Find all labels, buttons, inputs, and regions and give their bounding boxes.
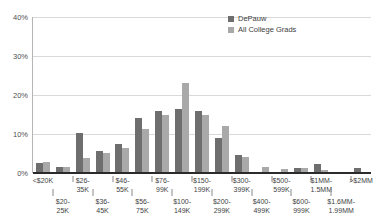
bar-group xyxy=(93,17,113,173)
bar-group xyxy=(351,17,371,173)
y-axis-tick-label: 0% xyxy=(0,169,28,178)
bar-group xyxy=(53,17,73,173)
bar-group xyxy=(311,17,331,173)
x-axis-tick-mark xyxy=(72,176,73,182)
bar-depauw xyxy=(115,144,122,173)
legend-label-depauw: DePauw xyxy=(238,13,266,24)
legend-swatch-icon xyxy=(228,27,234,33)
x-axis-tick-label: $300-399K xyxy=(233,177,251,194)
y-axis-tick-label: 40% xyxy=(0,13,28,22)
bar-group xyxy=(33,17,53,173)
x-axis-tick-mark xyxy=(52,189,53,196)
bar-depauw xyxy=(215,138,222,173)
bar-group xyxy=(73,17,93,173)
income-distribution-bar-chart: 0%10%20%30%40% <$20K$20-25K$26-35K$36-45… xyxy=(0,0,380,221)
x-axis-tick-label: <$20K xyxy=(33,177,53,186)
chart-legend: DePauw All College Grads xyxy=(228,13,296,35)
x-axis-tick-label: $100-149K xyxy=(173,198,191,215)
bar-depauw xyxy=(76,133,83,173)
x-axis-tick-mark xyxy=(112,176,113,182)
bar-group xyxy=(272,17,292,173)
bar-depauw xyxy=(235,155,242,173)
y-axis-tick-label: 20% xyxy=(0,91,28,100)
bar-group xyxy=(252,17,272,173)
x-axis-tick-label: $20-25K xyxy=(56,198,70,215)
bar-all-college-grads xyxy=(103,153,110,173)
bar-group xyxy=(291,17,311,173)
x-axis-tick-label: $56-75K xyxy=(135,198,149,215)
legend-item-depauw: DePauw xyxy=(228,13,296,24)
bar-depauw xyxy=(135,118,142,173)
x-axis-labels: <$20K$20-25K$26-35K$36-45K$46-55K$56-75K… xyxy=(33,175,371,221)
bar-groups xyxy=(33,17,371,173)
bar-all-college-grads xyxy=(222,126,229,173)
x-axis-tick-label: $36-45K xyxy=(96,198,110,215)
bar-group xyxy=(172,17,192,173)
legend-swatch-icon xyxy=(228,16,234,22)
legend-item-all-college-grads: All College Grads xyxy=(228,24,296,35)
x-axis-tick-mark xyxy=(172,189,173,196)
bar-all-college-grads xyxy=(202,115,209,173)
x-axis-tick-mark xyxy=(291,189,292,196)
x-axis-tick-label: $46-55K xyxy=(115,177,129,194)
x-axis-tick-mark xyxy=(251,189,252,196)
x-axis-tick-label: $1.6MM-1.99MM xyxy=(327,198,355,215)
x-axis-tick-label: $150-199K xyxy=(193,177,211,194)
bar-depauw xyxy=(155,111,162,173)
bar-group xyxy=(132,17,152,173)
x-axis-tick-label: $200-299K xyxy=(213,198,231,215)
bar-all-college-grads xyxy=(162,115,169,174)
bar-group xyxy=(232,17,252,173)
x-axis-baseline xyxy=(33,172,371,174)
bar-group xyxy=(212,17,232,173)
bar-group xyxy=(152,17,172,173)
x-axis-tick-label: $600-999K xyxy=(292,198,310,215)
bar-all-college-grads xyxy=(142,129,149,173)
x-axis-tick-label: $26-35K xyxy=(76,177,90,194)
bar-all-college-grads xyxy=(83,158,90,173)
legend-label-all-college-grads: All College Grads xyxy=(238,24,296,35)
bar-all-college-grads xyxy=(242,157,249,173)
bar-all-college-grads xyxy=(122,148,129,173)
x-axis-tick-label: >$2MM xyxy=(349,177,373,186)
x-axis-tick-mark xyxy=(132,189,133,196)
bar-all-college-grads xyxy=(182,83,189,173)
x-axis-tick-mark xyxy=(152,176,153,182)
y-axis-tick-label: 30% xyxy=(0,52,28,61)
bar-group xyxy=(192,17,212,173)
x-axis-tick-label: $76-99K xyxy=(155,177,169,194)
bar-depauw xyxy=(96,151,103,173)
x-axis-tick-label: $1MM-1.5MM xyxy=(310,177,332,194)
x-axis-tick-mark xyxy=(211,189,212,196)
x-axis-tick-mark xyxy=(331,189,332,196)
bar-depauw xyxy=(195,111,202,173)
plot-area xyxy=(33,17,371,173)
bar-group xyxy=(331,17,351,173)
bar-group xyxy=(113,17,133,173)
x-axis-tick-mark xyxy=(92,189,93,196)
y-axis-tick-label: 10% xyxy=(0,130,28,139)
bar-depauw xyxy=(175,109,182,173)
x-axis-tick-label: $400-499K xyxy=(253,198,271,215)
x-axis-tick-label: $500-599K xyxy=(273,177,291,194)
